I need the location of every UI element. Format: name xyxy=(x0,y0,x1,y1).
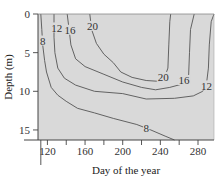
x-axis-title: Day of the year xyxy=(92,164,160,176)
contour-label: 16 xyxy=(65,24,77,36)
contour-label: 20 xyxy=(87,20,99,32)
contour-label: 12 xyxy=(51,22,62,34)
x-tick-label: 120 xyxy=(39,145,56,157)
contour-label: 20 xyxy=(158,71,170,83)
contour-label: 12 xyxy=(201,80,212,92)
contour-chart: 81216202016128 120160200240280051015 Day… xyxy=(0,0,223,181)
x-tick-label: 200 xyxy=(114,145,131,157)
contour-label: 8 xyxy=(40,35,46,47)
contour-label: 8 xyxy=(143,122,149,134)
x-tick-label: 160 xyxy=(77,145,94,157)
contour-label: 16 xyxy=(178,74,190,86)
y-tick-label: 15 xyxy=(19,124,31,136)
y-tick-label: 10 xyxy=(19,85,31,97)
y-axis-title: Depth (m) xyxy=(2,54,15,100)
x-tick-label: 240 xyxy=(152,145,169,157)
y-tick-label: 0 xyxy=(25,8,31,20)
x-tick-label: 280 xyxy=(190,145,207,157)
y-tick-label: 5 xyxy=(25,47,31,59)
